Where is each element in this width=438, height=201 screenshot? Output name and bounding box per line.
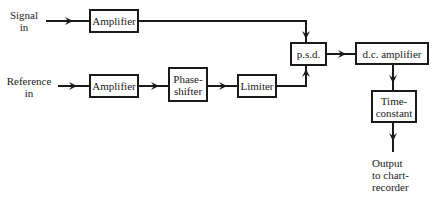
time-constant-line2: constant xyxy=(376,107,413,119)
psd-label: p.s.d. xyxy=(297,48,321,60)
time-constant-line1: Time- xyxy=(381,95,408,107)
limiter-label: Limiter xyxy=(241,80,274,92)
signal-in-label: Signal in xyxy=(4,9,44,33)
signal-label-line2: in xyxy=(4,21,44,33)
reference-amplifier-block: Amplifier xyxy=(89,74,139,98)
output-line2: to chart- xyxy=(372,169,428,181)
signal-amplifier-label: Amplifier xyxy=(92,15,135,27)
output-line1: Output xyxy=(372,157,428,169)
output-line3: recorder xyxy=(372,181,428,193)
phase-shifter-line2: shifter xyxy=(174,85,202,97)
dc-amplifier-label: d.c. amplifier xyxy=(363,48,422,60)
psd-block: p.s.d. xyxy=(290,42,327,66)
limiter-block: Limiter xyxy=(237,74,277,98)
phase-shifter-line1: Phase- xyxy=(173,73,202,85)
reference-in-label: Reference in xyxy=(0,75,58,99)
signal-label-line1: Signal xyxy=(4,9,44,21)
reference-label-line1: Reference xyxy=(0,75,58,87)
dc-amplifier-block: d.c. amplifier xyxy=(355,42,429,65)
reference-amplifier-label: Amplifier xyxy=(92,80,135,92)
signal-amplifier-block: Amplifier xyxy=(89,9,139,33)
phase-shifter-block: Phase- shifter xyxy=(168,67,208,102)
reference-label-line2: in xyxy=(0,87,58,99)
time-constant-block: Time- constant xyxy=(371,90,417,123)
output-label: Output to chart- recorder xyxy=(372,157,428,193)
